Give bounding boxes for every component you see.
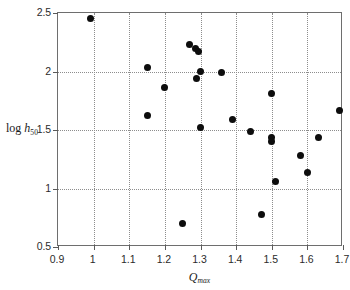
data-point: [218, 69, 225, 76]
data-point: [87, 15, 94, 22]
x-tick-label: 0.9: [50, 253, 64, 265]
gridline-vertical: [165, 13, 166, 245]
gridline-vertical: [307, 13, 308, 245]
data-point: [297, 152, 304, 159]
y-tick-mark: [53, 247, 58, 248]
x-tick-label: 1.7: [335, 253, 349, 265]
x-tick-mark: [201, 245, 202, 250]
data-point: [336, 107, 343, 114]
data-point: [144, 112, 151, 119]
data-point: [268, 90, 275, 97]
y-tick-label: 0.5: [21, 240, 51, 252]
plot-area: [57, 12, 342, 246]
x-tick-label: 1.6: [299, 253, 313, 265]
y-tick-mark: [53, 130, 58, 131]
x-tick-label: 1: [90, 253, 96, 265]
data-point: [258, 211, 265, 218]
scatter-plot-figure: 0.911.11.21.31.41.51.61.7 0.511.522.5 Qm…: [0, 0, 350, 290]
x-tick-label: 1.3: [192, 253, 206, 265]
data-point: [193, 75, 200, 82]
data-point: [229, 116, 236, 123]
x-tick-label: 1.1: [121, 253, 135, 265]
y-axis-label-subscript: 50: [30, 128, 38, 137]
gridline-vertical: [272, 13, 273, 245]
x-tick-mark: [272, 245, 273, 250]
data-point: [304, 169, 311, 176]
y-axis-label: log h50: [6, 121, 38, 136]
data-point: [247, 128, 254, 135]
gridline-vertical: [236, 13, 237, 245]
x-axis-label-base: Q: [189, 270, 198, 284]
data-point: [315, 134, 322, 141]
x-tick-mark: [94, 245, 95, 250]
y-tick-label: 2: [21, 65, 51, 77]
x-tick-label: 1.4: [228, 253, 242, 265]
x-tick-label: 1.5: [264, 253, 278, 265]
gridline-vertical: [94, 13, 95, 245]
data-point: [179, 220, 186, 227]
data-point: [161, 84, 168, 91]
y-tick-mark: [53, 13, 58, 14]
x-tick-mark: [343, 245, 344, 250]
data-point: [272, 178, 279, 185]
x-axis-label: Qmax: [189, 270, 210, 285]
x-tick-label: 1.2: [157, 253, 171, 265]
x-tick-mark: [236, 245, 237, 250]
y-axis-label-prefix: log: [6, 121, 24, 135]
y-tick-label: 1: [21, 182, 51, 194]
x-tick-mark: [129, 245, 130, 250]
x-tick-mark: [307, 245, 308, 250]
gridline-horizontal: [58, 189, 341, 190]
x-tick-mark: [58, 245, 59, 250]
y-tick-mark: [53, 72, 58, 73]
x-tick-mark: [165, 245, 166, 250]
y-tick-label: 2.5: [21, 6, 51, 18]
data-point: [144, 64, 151, 71]
y-tick-mark: [53, 189, 58, 190]
gridline-vertical: [129, 13, 130, 245]
data-point: [268, 138, 275, 145]
data-point: [197, 68, 204, 75]
x-axis-label-subscript: max: [197, 276, 210, 285]
